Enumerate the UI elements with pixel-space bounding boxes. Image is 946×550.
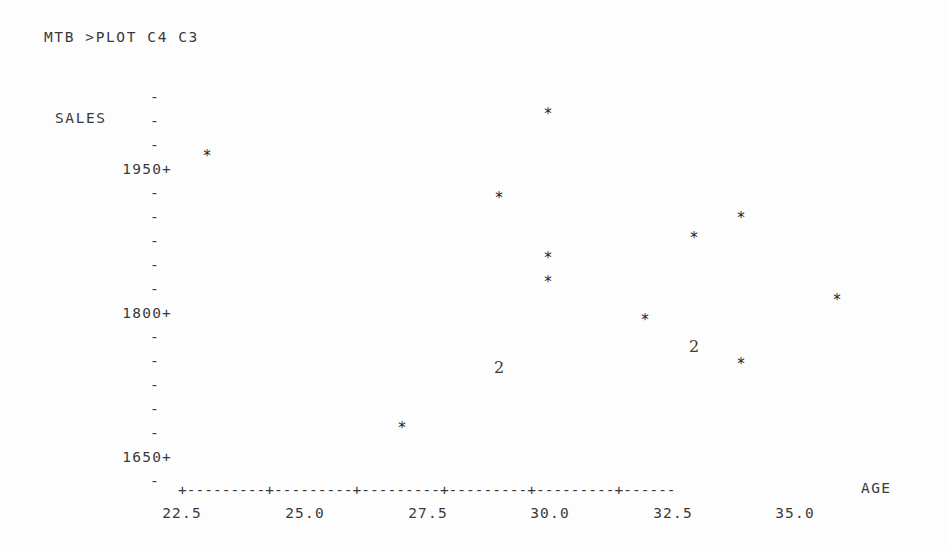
x-axis-tick-label: 30.0 [530, 505, 570, 521]
y-axis-minor-tick: - [150, 258, 159, 273]
y-axis-minor-tick: - [150, 114, 159, 129]
x-axis-tick-label: 27.5 [408, 505, 448, 521]
data-point: * [202, 149, 211, 164]
y-axis-minor-tick: - [150, 234, 159, 249]
data-point: * [397, 421, 406, 436]
minitab-plot-screen: MTB >PLOT C4 C3 SALES ---1950+-----1800+… [0, 0, 946, 550]
y-axis-minor-tick: - [150, 474, 159, 489]
data-point: * [543, 275, 552, 290]
x-axis-rule: +---------+---------+---------+---------… [178, 483, 676, 497]
y-axis-tick-label: 1650+ [122, 450, 172, 465]
x-axis-title: AGE [861, 480, 891, 496]
data-point-cluster: 2 [494, 360, 504, 376]
y-axis-minor-tick: - [150, 402, 159, 417]
data-point: * [640, 313, 649, 328]
y-axis-tick-label: 1950+ [122, 162, 172, 177]
x-axis-tick-label: 25.0 [285, 505, 325, 521]
data-point: * [832, 293, 841, 308]
data-point: * [736, 211, 745, 226]
data-point: * [689, 231, 698, 246]
y-axis-tick-label: 1800+ [122, 306, 172, 321]
x-axis-tick-label: 35.0 [775, 505, 815, 521]
y-axis-minor-tick: - [150, 426, 159, 441]
x-axis-tick-label: 32.5 [653, 505, 693, 521]
data-point: * [543, 251, 552, 266]
data-point-cluster: 2 [689, 339, 699, 355]
y-axis-minor-tick: - [150, 330, 159, 345]
data-point: * [736, 357, 745, 372]
y-axis-minor-tick: - [150, 138, 159, 153]
y-axis-minor-tick: - [150, 210, 159, 225]
x-axis-tick-label: 22.5 [162, 505, 202, 521]
y-axis-minor-tick: - [150, 90, 159, 105]
y-axis-minor-tick: - [150, 354, 159, 369]
data-point: * [494, 191, 503, 206]
character-plot: SALES ---1950+-----1800+-----1650+- ***2… [0, 0, 946, 550]
y-axis-minor-tick: - [150, 378, 159, 393]
data-point: * [543, 107, 552, 122]
y-axis-minor-tick: - [150, 282, 159, 297]
y-axis-title: SALES [55, 110, 107, 126]
y-axis-minor-tick: - [150, 186, 159, 201]
